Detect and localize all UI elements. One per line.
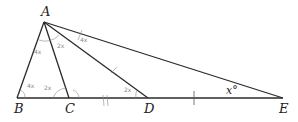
vertex-label-a: A — [40, 4, 50, 19]
note-angle-c: 2x — [44, 84, 52, 91]
segment-ad — [44, 22, 148, 98]
note-angle-d: 2x — [124, 86, 132, 93]
angle-arc-d — [136, 90, 137, 98]
angle-label-x: x° — [226, 84, 238, 97]
note-angle-a-left: 4x — [34, 48, 42, 55]
tick-mark-cd-2 — [107, 95, 108, 106]
angle-arc-c-left — [53, 88, 66, 98]
vertex-label-d: D — [143, 101, 155, 116]
vertex-label-e: E — [278, 101, 289, 116]
geometry-diagram: 4x 2x 4x 4x 2x 2x A B C D E x° — [0, 0, 298, 122]
segment-ae — [44, 22, 283, 98]
vertex-label-c: C — [65, 101, 75, 116]
note-angle-a-mid: 2x — [57, 42, 65, 49]
note-angle-b: 4x — [27, 82, 35, 89]
angle-arc-b — [20, 90, 25, 98]
note-angle-a-right: 4x — [80, 36, 88, 43]
angle-arc-c-right — [73, 90, 79, 98]
tick-mark-cd-1 — [103, 95, 104, 106]
tick-mark-ad — [111, 67, 117, 73]
vertex-label-b: B — [13, 101, 24, 116]
